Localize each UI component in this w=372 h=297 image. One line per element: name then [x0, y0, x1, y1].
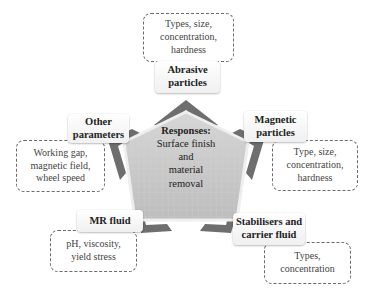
other-label-line-2: parameters — [73, 129, 124, 142]
abrasive-detail-1: Types, size, — [160, 18, 217, 31]
stabilisers-carrier-fluid-label: Stabilisers and carrier fluid — [233, 213, 305, 245]
mr-fluid-detail-1: pH, viscosity, — [66, 238, 121, 251]
center-line-3: material — [136, 163, 236, 176]
stabilisers-details-box: Types, concentration — [264, 242, 351, 284]
abrasive-details-box: Types, size, concentration, hardness — [143, 13, 234, 62]
center-line-2: and — [136, 150, 236, 163]
center-line-1: Surface finish — [136, 137, 236, 150]
other-parameters-label: Other parameters — [68, 114, 129, 143]
other-label-line-1: Other — [73, 116, 124, 129]
magnetic-particles-label: Magnetic particles — [244, 111, 307, 142]
other-details-box: Working gap, magnetic field, wheel speed — [16, 140, 105, 192]
mr-fluid-label: MR fluid — [77, 210, 143, 232]
abrasive-detail-3: hardness — [160, 44, 217, 57]
mr-fluid-detail-2: yield stress — [66, 251, 121, 264]
center-heading: Responses: — [136, 124, 236, 137]
magnetic-detail-2: concentration, — [287, 159, 344, 172]
magnetic-details-box: Type, size, concentration, hardness — [272, 140, 358, 191]
center-line-4: removal — [136, 177, 236, 190]
mr-fluid-details-box: pH, viscosity, yield stress — [50, 230, 137, 272]
stabilisers-detail-2: concentration — [280, 263, 334, 276]
abrasive-detail-2: concentration, — [160, 31, 217, 44]
diagram-canvas: Responses: Surface finish and material r… — [0, 0, 372, 297]
center-responses: Responses: Surface finish and material r… — [136, 124, 236, 190]
magnetic-detail-3: hardness — [287, 172, 344, 185]
abrasive-particles-label: Abrasive particles — [155, 61, 220, 93]
mr-fluid-label-line-1: MR fluid — [89, 215, 130, 228]
magnetic-label-line-2: particles — [255, 127, 297, 140]
abrasive-label-line-2: particles — [167, 77, 207, 90]
other-detail-3: wheel speed — [31, 172, 91, 185]
magnetic-detail-1: Type, size, — [287, 146, 344, 159]
other-detail-2: magnetic field, — [31, 160, 91, 173]
stabilisers-detail-1: Types, — [280, 250, 334, 263]
stabilisers-label-line-1: Stabilisers and — [236, 216, 302, 229]
magnetic-label-line-1: Magnetic — [255, 114, 297, 127]
stabilisers-label-line-2: carrier fluid — [236, 229, 302, 242]
abrasive-label-line-1: Abrasive — [167, 64, 207, 77]
other-detail-1: Working gap, — [31, 147, 91, 160]
